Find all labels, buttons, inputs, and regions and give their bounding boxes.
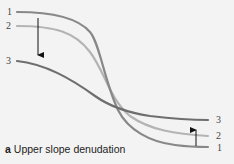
curve-3-left-label: 3 <box>6 56 11 66</box>
curve-3-right-label: 3 <box>216 115 221 125</box>
slope-evolution-diagram <box>0 0 234 164</box>
slope-profile-1 <box>17 12 208 147</box>
curve-1-left-label: 1 <box>7 7 12 17</box>
curve-2-left-label: 2 <box>6 21 11 31</box>
caption-text: Upper slope denudation <box>14 143 126 155</box>
curve-1-right-label: 1 <box>217 143 222 153</box>
figure-caption: aUpper slope denudation <box>5 143 125 155</box>
caption-letter: a <box>5 143 11 155</box>
curve-2-right-label: 2 <box>216 131 221 141</box>
slope-profile-3 <box>17 61 208 120</box>
